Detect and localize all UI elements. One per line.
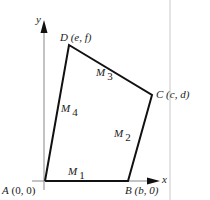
- vertex-d-label: D (e, f): [60, 32, 91, 43]
- midpoint-m2-name: M: [114, 127, 123, 139]
- vertex-c-coords: (c, d): [166, 88, 189, 100]
- vertex-d-name: D: [60, 31, 68, 43]
- vertex-b-coords: (b, 0): [134, 184, 158, 196]
- midpoint-m3-label: M3: [96, 67, 113, 78]
- quadrilateral-diagram: [0, 0, 210, 200]
- midpoint-m1-index: 1: [79, 169, 85, 181]
- midpoint-m4-index: 4: [72, 106, 78, 118]
- vertex-a-label: A (0, 0): [2, 185, 35, 196]
- vertex-b-label: B (b, 0): [125, 185, 158, 196]
- midpoint-m2-index: 2: [125, 131, 131, 143]
- vertex-a-coords: (0, 0): [11, 184, 35, 196]
- midpoint-m4-label: M4: [61, 103, 78, 114]
- vertex-c-label: C (c, d): [156, 89, 189, 100]
- midpoint-m2-label: M2: [114, 128, 131, 139]
- vertex-a-name: A: [2, 184, 9, 196]
- y-axis-arrow-icon: [41, 20, 48, 33]
- y-axis-label: y: [36, 14, 41, 25]
- midpoint-m1-label: M1: [68, 166, 85, 177]
- midpoint-m3-index: 3: [107, 70, 113, 82]
- vertex-b-name: B: [125, 184, 132, 196]
- midpoint-m4-name: M: [61, 102, 70, 114]
- vertex-c-name: C: [156, 88, 163, 100]
- midpoint-m3-name: M: [96, 66, 105, 78]
- midpoint-m1-name: M: [68, 165, 77, 177]
- vertex-d-coords: (e, f): [71, 31, 92, 43]
- x-axis-label: x: [162, 174, 167, 185]
